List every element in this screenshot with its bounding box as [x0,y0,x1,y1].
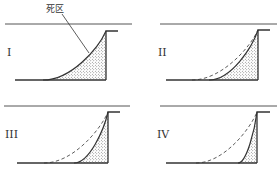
wall [106,31,118,80]
panel-iii: III [4,106,130,163]
wall [257,112,270,163]
wall [108,112,120,163]
panel-label: II [158,46,167,59]
panel-i: I [5,24,132,80]
dead-zone-label: 死区 [46,4,64,14]
dead-zone-diagram: IIIIIIIV 死区 [0,0,280,173]
panel-label: I [7,46,11,59]
panel-label: IV [157,128,170,141]
dead-zone-annotation: 死区 [46,4,89,53]
dead-zone-region [209,30,258,80]
dead-zone-region [238,112,257,163]
wall [258,30,270,80]
dead-zone-region [43,31,106,80]
panel-ii: II [158,24,277,80]
panel-label: III [5,128,18,141]
panel-iv: IV [157,106,277,163]
leader-line [62,14,89,53]
